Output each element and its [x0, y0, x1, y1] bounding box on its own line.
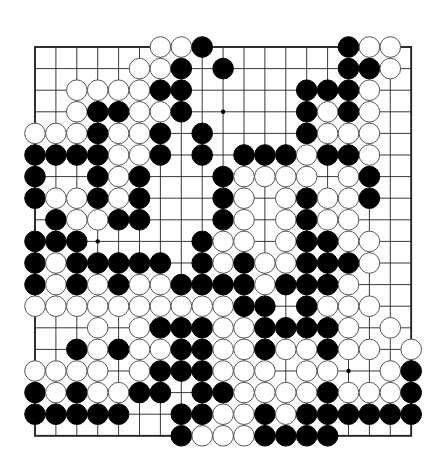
white-stone	[213, 426, 234, 447]
black-stone	[401, 382, 422, 403]
black-stone	[255, 339, 276, 360]
black-stone	[25, 404, 46, 425]
black-stone	[129, 188, 150, 209]
white-stone	[87, 296, 108, 317]
black-stone	[192, 274, 213, 295]
white-stone	[276, 231, 297, 252]
star-point-icon	[346, 369, 350, 373]
black-stone	[129, 210, 150, 231]
go-board[interactable]	[0, 0, 448, 471]
black-stone	[296, 188, 317, 209]
white-stone	[317, 361, 338, 382]
white-stone	[276, 404, 297, 425]
star-point-icon	[221, 110, 225, 114]
black-stone	[150, 123, 171, 144]
white-stone	[46, 274, 67, 295]
black-stone	[67, 404, 88, 425]
black-stone	[67, 274, 88, 295]
white-stone	[317, 102, 338, 123]
black-stone	[129, 382, 150, 403]
black-stone	[338, 37, 359, 58]
white-stone	[108, 123, 129, 144]
white-stone	[234, 361, 255, 382]
black-stone	[150, 382, 171, 403]
white-stone	[359, 296, 380, 317]
black-stone	[359, 188, 380, 209]
black-stone	[108, 102, 129, 123]
white-stone	[296, 145, 317, 166]
white-stone	[380, 318, 401, 339]
white-stone	[338, 188, 359, 209]
white-stone	[129, 123, 150, 144]
black-stone	[359, 58, 380, 79]
black-stone	[87, 188, 108, 209]
black-stone	[338, 253, 359, 274]
black-stone	[276, 318, 297, 339]
black-stone	[338, 58, 359, 79]
black-stone	[296, 231, 317, 252]
white-stone	[108, 188, 129, 209]
white-stone	[108, 382, 129, 403]
black-stone	[87, 253, 108, 274]
white-stone	[359, 37, 380, 58]
white-stone	[213, 404, 234, 425]
black-stone	[296, 253, 317, 274]
white-stone	[129, 145, 150, 166]
white-stone	[296, 339, 317, 360]
white-stone	[234, 166, 255, 187]
white-stone	[255, 274, 276, 295]
white-stone	[359, 339, 380, 360]
white-stone	[67, 123, 88, 144]
white-stone	[255, 166, 276, 187]
white-stone	[87, 80, 108, 101]
white-stone	[276, 253, 297, 274]
black-stone	[108, 210, 129, 231]
black-stone	[380, 404, 401, 425]
white-stone	[213, 296, 234, 317]
white-stone	[129, 339, 150, 360]
black-stone	[150, 145, 171, 166]
white-stone	[87, 318, 108, 339]
white-stone	[67, 102, 88, 123]
black-stone	[108, 339, 129, 360]
white-stone	[338, 274, 359, 295]
white-stone	[359, 102, 380, 123]
black-stone	[317, 404, 338, 425]
white-stone	[150, 58, 171, 79]
black-stone	[213, 188, 234, 209]
black-stone	[25, 274, 46, 295]
black-stone	[67, 382, 88, 403]
white-stone	[317, 123, 338, 144]
black-stone	[296, 296, 317, 317]
white-stone	[46, 382, 67, 403]
white-stone	[46, 361, 67, 382]
white-stone	[296, 166, 317, 187]
black-stone	[296, 210, 317, 231]
white-stone	[338, 123, 359, 144]
black-stone	[171, 318, 192, 339]
black-stone	[87, 145, 108, 166]
black-stone	[87, 123, 108, 144]
white-stone	[255, 382, 276, 403]
white-stone	[87, 339, 108, 360]
black-stone	[150, 361, 171, 382]
white-stone	[150, 296, 171, 317]
black-stone	[25, 382, 46, 403]
white-stone	[67, 210, 88, 231]
black-stone	[192, 123, 213, 144]
white-stone	[192, 426, 213, 447]
black-stone	[234, 296, 255, 317]
white-stone	[380, 58, 401, 79]
black-stone	[255, 296, 276, 317]
black-stone	[108, 253, 129, 274]
black-stone	[67, 253, 88, 274]
black-stone	[25, 231, 46, 252]
white-stone	[255, 253, 276, 274]
black-stone	[192, 318, 213, 339]
black-stone	[234, 145, 255, 166]
black-stone	[192, 37, 213, 58]
black-stone	[317, 274, 338, 295]
black-stone	[129, 253, 150, 274]
black-stone	[171, 80, 192, 101]
black-stone	[359, 404, 380, 425]
